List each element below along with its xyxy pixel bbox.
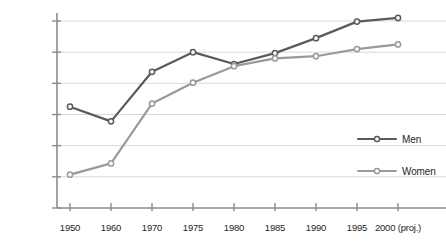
series-lines bbox=[70, 18, 398, 175]
x-axis-tick-label: 1960 bbox=[101, 222, 121, 233]
data-point-men-1985 bbox=[272, 51, 277, 56]
data-point-women-2000 bbox=[395, 42, 400, 47]
x-axis-tick-label: 1995 bbox=[347, 222, 367, 233]
data-point-women-1995 bbox=[354, 46, 359, 51]
x-axis-tick-label: 1990 bbox=[306, 222, 326, 233]
data-point-women-1960 bbox=[108, 161, 113, 166]
data-point-women-1980 bbox=[231, 64, 236, 69]
data-point-women-1950 bbox=[67, 172, 72, 177]
legend-label-men: Men bbox=[402, 134, 421, 145]
x-axis-tick-label: 1985 bbox=[265, 222, 285, 233]
x-axis-ticks bbox=[70, 203, 398, 211]
data-point-men-1975 bbox=[190, 50, 195, 55]
data-point-women-1985 bbox=[272, 56, 277, 61]
data-point-men-1995 bbox=[354, 19, 359, 24]
chart-plot-area bbox=[0, 0, 446, 251]
data-point-men-1960 bbox=[108, 119, 113, 124]
legend-label-women: Women bbox=[402, 166, 436, 177]
legend-marker-men bbox=[374, 136, 379, 141]
data-point-men-1990 bbox=[313, 36, 318, 41]
axes bbox=[57, 13, 446, 208]
line-chart: 0100,000200,000300,000400,000500,000600,… bbox=[0, 0, 446, 251]
x-axis-tick-label: 1950 bbox=[60, 222, 80, 233]
data-point-men-1970 bbox=[149, 69, 154, 74]
gridlines bbox=[57, 21, 446, 177]
x-axis-tick-label: 1970 bbox=[142, 222, 162, 233]
x-axis-tick-label: 1980 bbox=[224, 222, 244, 233]
data-point-men-1950 bbox=[67, 104, 72, 109]
data-point-women-1970 bbox=[149, 101, 154, 106]
legend-swatches bbox=[358, 136, 396, 173]
data-point-women-1990 bbox=[313, 54, 318, 59]
data-point-women-1975 bbox=[190, 80, 195, 85]
series-line-men bbox=[70, 18, 398, 121]
legend-marker-women bbox=[374, 168, 379, 173]
x-axis-tick-label: 1975 bbox=[183, 222, 203, 233]
data-point-men-2000 bbox=[395, 15, 400, 20]
x-axis-tick-label: 2000 (proj.) bbox=[375, 222, 421, 233]
